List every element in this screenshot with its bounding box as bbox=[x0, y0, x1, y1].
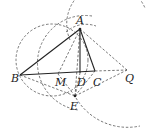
geometry-diagram: A B M D C Q E bbox=[0, 0, 147, 132]
label-B: B bbox=[10, 72, 19, 85]
dashed-arc-lower bbox=[76, 98, 140, 127]
segment-CQ bbox=[95, 70, 127, 71]
label-M: M bbox=[54, 76, 67, 89]
label-C: C bbox=[93, 76, 102, 89]
label-E: E bbox=[69, 100, 78, 113]
segment-AB bbox=[20, 29, 80, 75]
point-A bbox=[79, 28, 82, 31]
segment-BC bbox=[20, 71, 95, 75]
label-Q: Q bbox=[125, 72, 134, 85]
dashed-arc-through-a-e bbox=[37, 15, 92, 110]
label-D: D bbox=[76, 76, 86, 89]
label-A: A bbox=[75, 14, 84, 27]
point-E bbox=[74, 95, 77, 98]
segment-AM bbox=[58, 29, 80, 74]
